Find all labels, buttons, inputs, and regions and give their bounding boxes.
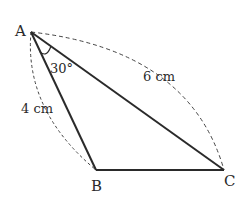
vertex-label-c: C bbox=[224, 172, 235, 190]
vertex-label-a: A bbox=[14, 22, 26, 40]
triangle-diagram: A B C 30° 6 cm 4 cm bbox=[0, 0, 246, 202]
side-label-ac: 6 cm bbox=[143, 69, 175, 84]
angle-arc-a bbox=[40, 46, 51, 54]
side-label-ab: 4 cm bbox=[21, 101, 53, 116]
angle-label: 30° bbox=[50, 61, 73, 76]
vertex-label-b: B bbox=[91, 177, 102, 195]
side-ac bbox=[31, 32, 224, 170]
